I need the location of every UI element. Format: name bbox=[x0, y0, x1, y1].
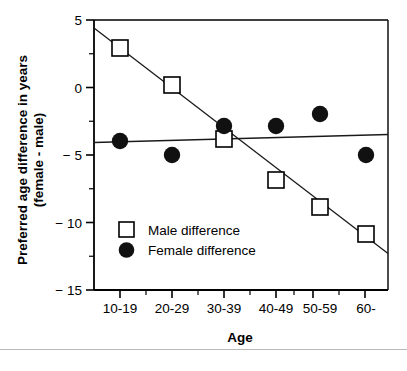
chart-figure: 5 0 − 5 − 10 − 15 Preferred age differen… bbox=[0, 0, 407, 371]
data-point-female-60-plus bbox=[358, 147, 374, 163]
data-point-male-50-59 bbox=[312, 199, 328, 215]
data-point-male-10-19 bbox=[112, 40, 128, 56]
x-tick-label-10-19: 10-19 bbox=[103, 301, 138, 316]
data-point-male-20-29 bbox=[164, 77, 180, 93]
scatter-plot-svg: 5 0 − 5 − 10 − 15 Preferred age differen… bbox=[0, 0, 407, 371]
data-point-female-10-19 bbox=[112, 133, 128, 149]
x-tick-label-20-29: 20-29 bbox=[155, 301, 190, 316]
data-point-male-60-plus bbox=[358, 226, 374, 242]
x-axis-major-ticks bbox=[120, 290, 365, 298]
data-point-female-40-49 bbox=[268, 118, 284, 134]
data-point-female-50-59 bbox=[312, 106, 328, 122]
y-axis-title: Preferred age difference in years (femal… bbox=[15, 55, 46, 265]
data-point-male-40-49 bbox=[268, 172, 284, 188]
y-axis-title-line1: Preferred age difference in years bbox=[15, 55, 30, 265]
data-point-female-20-29 bbox=[164, 147, 180, 163]
y-axis-major-ticks bbox=[86, 20, 94, 290]
data-point-female-30-39 bbox=[216, 118, 232, 134]
y-axis-title-line2: (female - male) bbox=[31, 113, 46, 208]
x-tick-label-40-49: 40-49 bbox=[259, 301, 294, 316]
series-female-difference bbox=[112, 106, 374, 163]
y-axis-tick-labels: 5 0 − 5 − 10 − 15 bbox=[55, 13, 82, 298]
trendlines bbox=[94, 28, 388, 254]
x-tick-label-30-39: 30-39 bbox=[207, 301, 242, 316]
y-tick-label-0: 0 bbox=[74, 81, 82, 96]
legend-label-female-difference: Female difference bbox=[148, 243, 256, 258]
legend-label-male-difference: Male difference bbox=[148, 223, 240, 238]
y-tick-label-minus10: − 10 bbox=[55, 216, 82, 231]
x-tick-label-60-plus: 60- bbox=[356, 301, 376, 316]
legend-marker-filled-circle bbox=[119, 242, 135, 258]
y-tick-label-minus5: − 5 bbox=[63, 148, 82, 163]
y-tick-label-5: 5 bbox=[74, 13, 82, 28]
figure-bottom-rule bbox=[0, 349, 407, 350]
x-tick-label-50-59: 50-59 bbox=[303, 301, 338, 316]
legend-marker-open-square bbox=[119, 222, 134, 237]
x-axis-title: Age bbox=[227, 330, 253, 345]
y-tick-label-minus15: − 15 bbox=[55, 283, 82, 298]
chart-legend: Male difference Female difference bbox=[119, 222, 256, 258]
x-axis-tick-labels: 10-19 20-29 30-39 40-49 50-59 60- bbox=[103, 301, 376, 316]
